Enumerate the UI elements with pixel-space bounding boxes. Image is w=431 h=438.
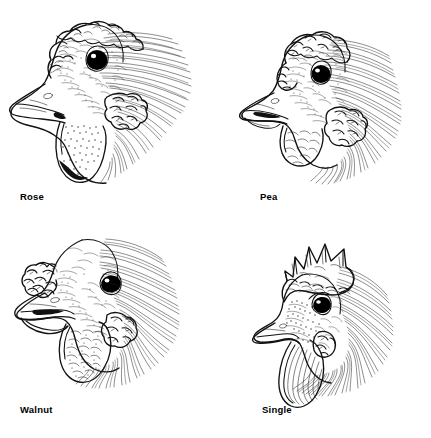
walnut-comb — [22, 263, 57, 298]
eye — [311, 61, 331, 84]
wattle-striations — [288, 347, 322, 404]
earlobe — [325, 107, 368, 146]
beak — [17, 293, 75, 334]
eye — [100, 272, 122, 295]
beak — [253, 323, 299, 343]
wattle — [280, 126, 323, 166]
walnut-comb-illustration — [15, 239, 179, 388]
eye — [86, 46, 108, 71]
panel-rose: Rose — [0, 0, 215, 219]
single-comb-illustration — [253, 244, 393, 407]
hackle-feathers — [293, 267, 393, 396]
panel-single: Single — [215, 219, 431, 438]
earlobe — [105, 93, 148, 129]
face-texture — [57, 39, 126, 116]
label-single: Single — [262, 405, 292, 415]
wattle — [56, 122, 106, 182]
eye — [309, 293, 332, 315]
label-walnut: Walnut — [20, 405, 53, 415]
label-pea: Pea — [260, 192, 278, 202]
wattle — [59, 322, 110, 382]
hackle-shading — [100, 40, 188, 171]
panel-walnut: Walnut — [0, 219, 215, 438]
hackle-feathers — [76, 239, 179, 388]
pea-comb-illustration — [240, 32, 401, 184]
wattle — [279, 340, 324, 407]
wattle-scale-texture — [67, 330, 104, 379]
panel-pea: Pea — [215, 0, 431, 219]
rose-comb-illustration — [10, 22, 191, 184]
label-rose: Rose — [20, 192, 44, 202]
comb-type-plate: Rose — [0, 0, 431, 438]
